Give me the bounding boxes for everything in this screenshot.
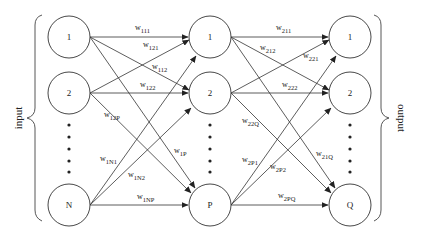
neural-network-diagram: input output 1 2 N xyxy=(0,0,421,239)
weight-label: w2P2 xyxy=(270,162,286,173)
weight-label: w1P xyxy=(174,146,187,157)
output-layer: 1 2 Q xyxy=(329,16,371,226)
weight-label: w111 xyxy=(135,23,150,34)
weight-label: w221 xyxy=(303,51,319,62)
weight-label: w2PQ xyxy=(278,191,296,202)
weight-label: w222 xyxy=(282,80,298,91)
output-ellipsis xyxy=(348,123,351,173)
weight-label: w211 xyxy=(276,23,291,34)
hidden-node-2-label: 2 xyxy=(208,88,213,98)
input-ellipsis xyxy=(67,123,70,173)
hidden-node-1-label: 1 xyxy=(208,32,213,42)
weight-label: w122 xyxy=(140,80,156,91)
output-node-q-label: Q xyxy=(347,200,354,210)
weight-label: w21Q xyxy=(316,149,333,160)
weight-label: w1N1 xyxy=(100,154,117,165)
weight-label: w12P xyxy=(104,110,120,121)
output-brace xyxy=(374,15,389,221)
output-node-2-label: 2 xyxy=(348,88,353,98)
output-label: output xyxy=(396,104,408,132)
weight-label: w1N2 xyxy=(128,170,145,181)
weight-labels-layer2: w211 w212 w221 w222 w22Q w2P1 w2P2 w21Q … xyxy=(242,23,333,202)
input-brace xyxy=(27,15,42,221)
hidden-ellipsis xyxy=(208,123,211,173)
output-node-1-label: 1 xyxy=(348,32,353,42)
weight-label: w22Q xyxy=(242,116,259,127)
hidden-layer: 1 2 P xyxy=(189,16,231,226)
input-layer: 1 2 N xyxy=(48,16,90,226)
weight-label: w2P1 xyxy=(242,155,258,166)
input-label: input xyxy=(12,107,24,130)
weight-label: w1NP xyxy=(137,192,155,203)
hidden-node-p-label: P xyxy=(207,200,212,210)
input-node-2-label: 2 xyxy=(67,88,72,98)
input-node-1-label: 1 xyxy=(67,32,72,42)
weight-label: w121 xyxy=(143,40,159,51)
input-node-n-label: N xyxy=(66,200,73,210)
weight-label: w212 xyxy=(260,43,276,54)
